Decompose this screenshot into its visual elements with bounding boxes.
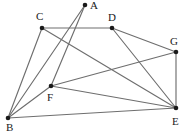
vertex-dot-e	[174, 106, 179, 111]
edge-c-b	[8, 28, 42, 118]
vertex-label-f: F	[47, 92, 53, 103]
vertex-label-d: D	[108, 12, 116, 23]
vertex-label-b: B	[6, 122, 13, 133]
vertex-dot-d	[110, 26, 115, 31]
vertex-label-e: E	[172, 116, 179, 127]
graph-figure: ABCDEFG	[0, 0, 186, 135]
vertex-dot-g	[174, 50, 179, 55]
vertex-dot-f	[49, 84, 54, 89]
graph-canvas	[0, 0, 186, 135]
vertex-dot-b	[6, 116, 11, 121]
vertex-label-g: G	[170, 36, 178, 47]
vertex-label-c: C	[36, 11, 43, 22]
vertices-group	[6, 3, 179, 121]
vertex-dot-a	[83, 3, 88, 8]
edge-g-f	[51, 52, 176, 86]
edge-a-f	[51, 5, 85, 86]
vertex-dot-c	[40, 26, 45, 31]
edge-b-e	[8, 108, 176, 118]
edges-group	[8, 5, 176, 118]
vertex-label-a: A	[90, 0, 98, 11]
